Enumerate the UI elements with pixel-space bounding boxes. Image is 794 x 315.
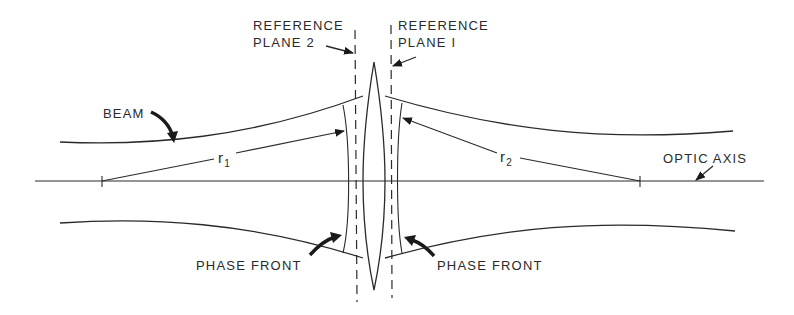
beam-lower-right <box>385 225 735 258</box>
reference-plane-1-label-line1: REFERENCE <box>398 18 489 33</box>
phase-front-right-label: PHASE FRONT <box>437 258 543 273</box>
beam-upper-right <box>385 96 733 135</box>
r1-radius-line-a <box>102 159 214 181</box>
reference-plane-2-line <box>355 30 357 302</box>
r2-radius-line-a <box>520 158 640 181</box>
phase-front-left-arrow-icon <box>310 232 342 255</box>
phase-front-left-curve <box>343 105 349 253</box>
beam-lower-left <box>60 221 363 258</box>
phase-front-left-label: PHASE FRONT <box>196 258 302 273</box>
optic-axis-label: OPTIC AXIS <box>663 151 747 166</box>
r1-label: r1 <box>218 149 231 169</box>
reference-plane-1-line <box>391 25 392 298</box>
r1-radius-line-b <box>236 131 344 153</box>
reference-plane-1-arrow <box>393 57 416 66</box>
phase-front-right-curve <box>398 103 403 253</box>
r2-radius-line-b <box>403 118 497 153</box>
beam-label: BEAM <box>103 106 145 121</box>
beam-lens-diagram: REFERENCE PLANE 2 REFERENCE PLANE I BEAM… <box>0 0 794 315</box>
reference-plane-2-label-line1: REFERENCE <box>253 18 344 33</box>
beam-arrow-icon <box>151 112 178 143</box>
reference-plane-2-label-line2: PLANE 2 <box>253 35 315 50</box>
reference-plane-2-arrow <box>326 46 353 53</box>
optic-axis-arrow <box>696 166 713 180</box>
r2-label: r2 <box>500 148 513 168</box>
phase-front-right-arrow-icon <box>404 235 434 256</box>
reference-plane-1-label-line2: PLANE I <box>398 35 456 50</box>
lens <box>363 62 385 290</box>
